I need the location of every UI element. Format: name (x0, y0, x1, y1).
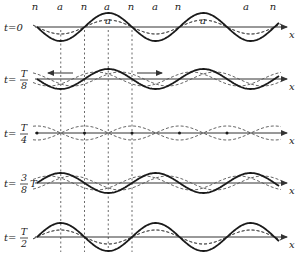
node-antinode-labels: nananananaa (32, 1, 276, 26)
time-label: t=T8 (4, 68, 28, 91)
svg-text:t=: t= (4, 232, 16, 243)
time-label: t=T4 (4, 122, 28, 145)
time-label: t=0 (4, 22, 23, 33)
svg-text:4: 4 (20, 134, 27, 145)
row-t0: xt=0 (4, 13, 295, 41)
x-axis-label: x (289, 81, 295, 92)
antinode-label: a (200, 15, 206, 26)
svg-text:3: 3 (21, 172, 27, 183)
x-axis-label: x (289, 29, 295, 40)
time-rows: xt=0xt=T8xt=T4xt=38Txt=T2 (4, 13, 295, 251)
svg-text:T: T (21, 122, 28, 133)
node-label: n (175, 1, 181, 12)
svg-text:t=: t= (4, 74, 16, 85)
svg-text:2: 2 (20, 238, 27, 249)
antinode-label: a (152, 1, 158, 12)
node-dot (226, 132, 229, 135)
node-dot (36, 132, 39, 135)
antinode-label: a (104, 1, 110, 12)
node-dot (83, 132, 86, 135)
svg-text:8: 8 (21, 184, 27, 195)
node-dot (178, 132, 181, 135)
x-axis-label: x (289, 185, 295, 196)
node-label: n (128, 1, 134, 12)
row-t_T8: xt=T8 (4, 68, 295, 92)
node-label: n (81, 1, 87, 12)
time-label: t=38T (4, 172, 38, 195)
svg-text:T: T (21, 226, 28, 237)
svg-text:8: 8 (21, 80, 27, 91)
vertical-guide-lines (61, 30, 132, 252)
x-axis-label: x (289, 239, 295, 250)
time-label: t=T2 (4, 226, 28, 249)
svg-text:T: T (21, 68, 28, 79)
row-t_T2: xt=T2 (4, 223, 295, 251)
standing-wave-diagram: xt=0xt=T8xt=T4xt=38Txt=T2 nananananaa (0, 0, 295, 269)
node-dot (131, 132, 134, 135)
row-t_T4: xt=T4 (4, 122, 295, 146)
svg-text:t=0: t=0 (4, 22, 23, 33)
diagram-canvas: xt=0xt=T8xt=T4xt=38Txt=T2 nananananaa (0, 0, 295, 269)
antinode-label: a (243, 1, 249, 12)
svg-text:t=: t= (4, 128, 16, 139)
node-label: n (270, 1, 276, 12)
svg-text:t=: t= (4, 178, 16, 189)
node-label: n (32, 1, 38, 12)
x-axis-label: x (289, 135, 295, 146)
row-t_3T8: xt=38T (4, 172, 295, 196)
antinode-label: a (105, 15, 111, 26)
antinode-label: a (57, 1, 63, 12)
